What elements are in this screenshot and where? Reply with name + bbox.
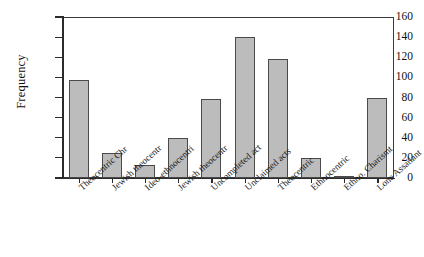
y-tick-mark	[55, 37, 62, 38]
bar	[301, 158, 321, 178]
y-tick-mark	[55, 137, 62, 138]
y-tick-mark	[55, 177, 62, 178]
y-tick-mark	[55, 157, 62, 158]
bar	[135, 165, 155, 178]
chart-title-cropped	[66, 0, 306, 1]
y-tick-mark	[55, 117, 62, 118]
x-tick-mark	[245, 178, 246, 183]
bar	[235, 37, 255, 178]
bar	[102, 153, 122, 178]
bar	[168, 138, 188, 178]
y-tick-mark	[55, 97, 62, 98]
y-tick-mark	[55, 16, 62, 17]
bar	[201, 99, 221, 178]
bar	[268, 59, 288, 178]
x-tick-mark	[79, 178, 80, 183]
bar	[334, 176, 354, 178]
y-tick-mark	[55, 77, 62, 78]
x-tick-mark	[278, 178, 279, 183]
x-tick-mark	[112, 178, 113, 183]
bar	[367, 98, 387, 179]
bar-series	[63, 17, 394, 178]
bar	[69, 80, 89, 178]
x-tick-mark	[145, 178, 146, 183]
x-tick-mark	[311, 178, 312, 183]
y-tick-mark	[55, 57, 62, 58]
x-tick-mark	[344, 178, 345, 183]
y-axis-title: Frequency	[14, 27, 29, 137]
x-tick-mark	[211, 178, 212, 183]
x-tick-mark	[178, 178, 179, 183]
x-tick-mark	[377, 178, 378, 183]
